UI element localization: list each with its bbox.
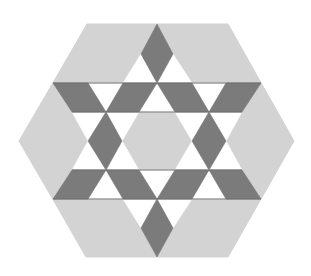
hexagram-svg — [0, 0, 311, 276]
hexagram-figure — [0, 0, 311, 276]
